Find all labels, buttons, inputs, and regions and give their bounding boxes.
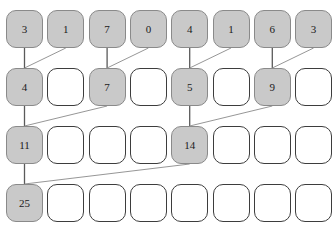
cell-value-label: 7 xyxy=(104,81,110,92)
value-cell[interactable]: 14 xyxy=(171,126,208,164)
empty-cell[interactable] xyxy=(89,126,126,164)
cell-value-label: 14 xyxy=(184,139,195,150)
cell-value-label: 6 xyxy=(270,23,276,34)
empty-cell[interactable] xyxy=(254,184,291,222)
cell-value-label: 9 xyxy=(270,81,276,92)
value-cell[interactable]: 4 xyxy=(171,10,208,48)
empty-cell[interactable] xyxy=(47,126,84,164)
diagram-canvas: ∙ ∙ ∙ ∙ ∙ ∙ ∙ ∙ ∙ 317041634759111425 xyxy=(0,0,334,232)
empty-cell[interactable] xyxy=(130,126,167,164)
empty-cell[interactable] xyxy=(295,126,332,164)
empty-cell[interactable] xyxy=(130,184,167,222)
value-cell[interactable]: 6 xyxy=(254,10,291,48)
cropped-caption-sliver: ∙ ∙ ∙ ∙ ∙ ∙ ∙ ∙ ∙ xyxy=(0,0,334,5)
value-cell[interactable]: 1 xyxy=(213,10,250,48)
cell-value-label: 1 xyxy=(228,23,234,34)
value-cell[interactable]: 9 xyxy=(254,68,291,106)
cell-value-label: 3 xyxy=(311,23,317,34)
edge-diagonal xyxy=(25,48,66,68)
empty-cell[interactable] xyxy=(295,68,332,106)
edge-diagonal xyxy=(25,164,190,184)
edge-diagonal xyxy=(25,106,108,126)
empty-cell[interactable] xyxy=(295,184,332,222)
empty-cell[interactable] xyxy=(47,184,84,222)
value-cell[interactable]: 7 xyxy=(89,10,126,48)
empty-cell[interactable] xyxy=(254,126,291,164)
empty-cell[interactable] xyxy=(89,184,126,222)
empty-cell[interactable] xyxy=(213,126,250,164)
cell-value-label: 0 xyxy=(146,23,152,34)
edge-diagonal xyxy=(190,48,231,68)
empty-cell[interactable] xyxy=(171,184,208,222)
cell-value-label: 4 xyxy=(187,23,193,34)
edge-diagonal xyxy=(190,106,273,126)
value-cell[interactable]: 0 xyxy=(130,10,167,48)
value-cell[interactable]: 4 xyxy=(6,68,43,106)
edge-diagonal xyxy=(272,48,313,68)
value-cell[interactable]: 5 xyxy=(171,68,208,106)
value-cell[interactable]: 3 xyxy=(6,10,43,48)
cell-value-label: 1 xyxy=(63,23,69,34)
cropped-caption-text: ∙ ∙ ∙ ∙ ∙ ∙ ∙ ∙ ∙ xyxy=(4,0,334,4)
cell-value-label: 25 xyxy=(19,197,30,208)
cell-value-label: 5 xyxy=(187,81,193,92)
empty-cell[interactable] xyxy=(47,68,84,106)
empty-cell[interactable] xyxy=(130,68,167,106)
cell-value-label: 4 xyxy=(22,81,28,92)
value-cell[interactable]: 25 xyxy=(6,184,43,222)
cell-value-label: 7 xyxy=(104,23,110,34)
empty-cell[interactable] xyxy=(213,68,250,106)
value-cell[interactable]: 1 xyxy=(47,10,84,48)
cell-value-label: 11 xyxy=(19,139,30,150)
value-cell[interactable]: 3 xyxy=(295,10,332,48)
value-cell[interactable]: 7 xyxy=(89,68,126,106)
value-cell[interactable]: 11 xyxy=(6,126,43,164)
cell-value-label: 3 xyxy=(22,23,28,34)
edge-diagonal xyxy=(107,48,148,68)
empty-cell[interactable] xyxy=(213,184,250,222)
